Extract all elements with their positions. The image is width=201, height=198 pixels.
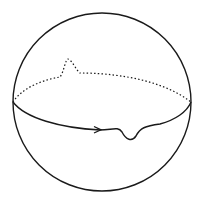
equator-front-solid xyxy=(13,102,191,139)
sphere-diagram xyxy=(0,0,201,198)
sphere-outline xyxy=(13,13,191,191)
equator-back-dotted xyxy=(13,59,191,102)
